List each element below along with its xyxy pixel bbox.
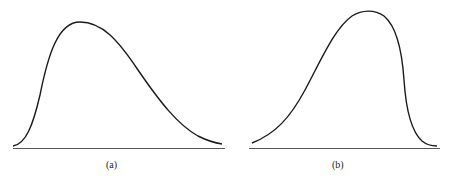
panel-b-caption: (b) bbox=[332, 159, 344, 170]
panel-b bbox=[249, 11, 440, 148]
panel-a-curve-right-skewed bbox=[13, 22, 222, 146]
panel-a bbox=[13, 22, 225, 149]
panel-b-curve-left-skewed bbox=[252, 11, 437, 146]
panel-a-caption: (a) bbox=[106, 159, 117, 170]
figure-canvas bbox=[0, 0, 450, 183]
